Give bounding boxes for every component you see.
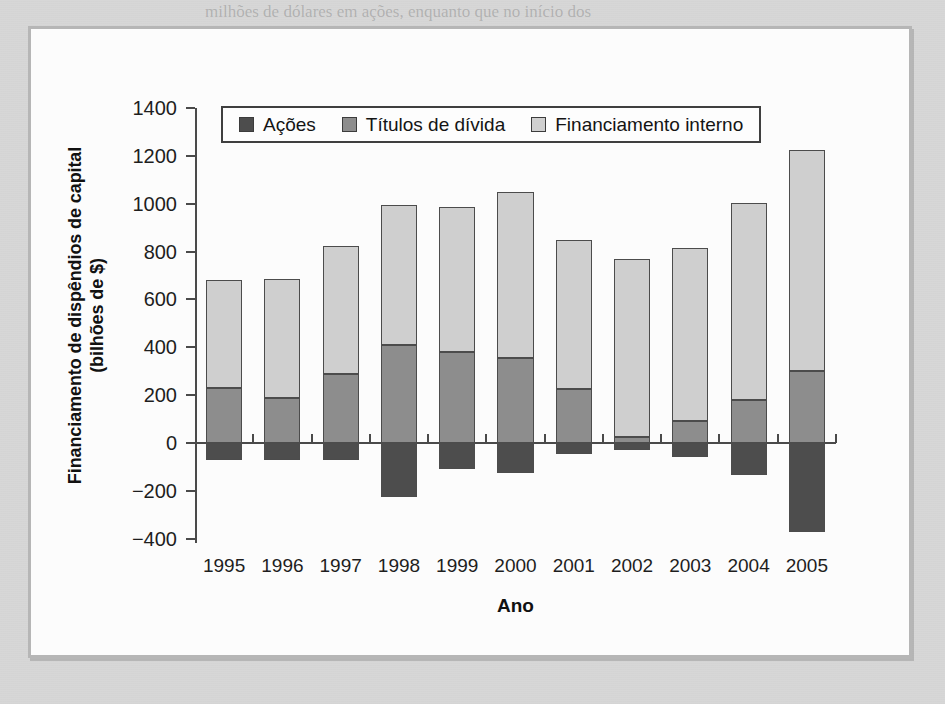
figure-inner: Financiamento de dispêndios de capital (… bbox=[31, 29, 909, 655]
legend-swatch-icon bbox=[239, 117, 254, 132]
x-tick-label: 1995 bbox=[203, 555, 245, 577]
legend-swatch-icon bbox=[342, 117, 357, 132]
x-tick-label: 1998 bbox=[378, 555, 420, 577]
x-tick-mark bbox=[427, 434, 429, 443]
page-background: milhões de dólares em ações, enquanto qu… bbox=[0, 0, 945, 704]
x-tick-mark bbox=[602, 434, 604, 443]
x-tick-label: 2001 bbox=[553, 555, 595, 577]
x-tick-mark bbox=[369, 434, 371, 443]
legend-label: Títulos de dívida bbox=[366, 114, 505, 136]
bleed-through-line: milhões de dólares em ações, enquanto qu… bbox=[205, 2, 591, 22]
x-tick-label: 1997 bbox=[320, 555, 362, 577]
bar-segment-debt[interactable] bbox=[789, 371, 825, 443]
x-tick-mark bbox=[718, 434, 720, 443]
x-tick-label: 2003 bbox=[669, 555, 711, 577]
legend-label: Financiamento interno bbox=[555, 114, 743, 136]
chart-legend: AçõesTítulos de dívidaFinanciamento inte… bbox=[221, 106, 761, 143]
x-tick-mark bbox=[544, 434, 546, 443]
x-tick-mark bbox=[311, 434, 313, 443]
legend-entry-internal[interactable]: Financiamento interno bbox=[531, 114, 743, 136]
x-tick-mark bbox=[485, 434, 487, 443]
x-tick-label: 1999 bbox=[436, 555, 478, 577]
legend-swatch-icon bbox=[531, 117, 546, 132]
x-tick-label: 2002 bbox=[611, 555, 653, 577]
x-tick-mark bbox=[835, 434, 837, 443]
x-tick-mark bbox=[660, 434, 662, 443]
figure-frame: Financiamento de dispêndios de capital (… bbox=[28, 26, 912, 658]
x-tick-label: 2004 bbox=[727, 555, 769, 577]
x-axis-title: Ano bbox=[31, 595, 909, 617]
legend-label: Ações bbox=[263, 114, 316, 136]
x-tick-label: 2000 bbox=[494, 555, 536, 577]
legend-entry-equity[interactable]: Ações bbox=[239, 114, 316, 136]
x-tick-mark bbox=[252, 434, 254, 443]
x-tick-label: 2005 bbox=[786, 555, 828, 577]
legend-entry-debt[interactable]: Títulos de dívida bbox=[342, 114, 505, 136]
x-tick-label: 1996 bbox=[261, 555, 303, 577]
stacked-bar-chart: Financiamento de dispêndios de capital (… bbox=[31, 29, 909, 655]
x-tick-mark bbox=[777, 434, 779, 443]
bar-segment-equity[interactable] bbox=[789, 443, 825, 532]
bar-segment-internal[interactable] bbox=[789, 150, 825, 371]
